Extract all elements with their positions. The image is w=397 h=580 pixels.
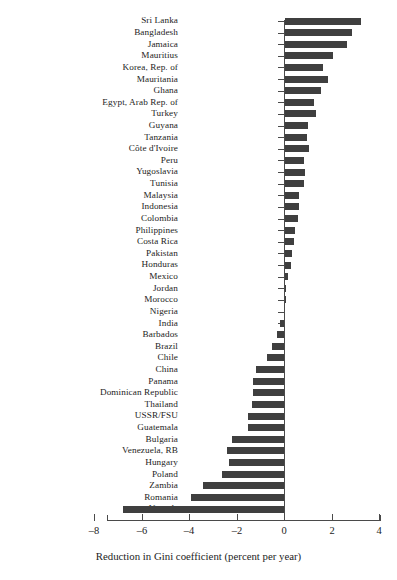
category-label: Morocco <box>144 295 178 304</box>
category-label: Yugoslavia <box>136 167 178 176</box>
category-label: Bulgaria <box>146 435 178 444</box>
bar <box>256 366 285 373</box>
category-label: Panama <box>148 377 178 386</box>
x-axis-tick-label: –2 <box>217 525 257 537</box>
category-label: Indonesia <box>141 202 178 211</box>
x-axis-tick-label: 0 <box>264 525 304 537</box>
x-axis-tick <box>284 514 285 521</box>
bar <box>285 238 294 245</box>
x-axis-line <box>107 520 381 521</box>
category-label: Mauritania <box>137 75 178 84</box>
category-label: India <box>159 319 178 328</box>
category-label: Pakistan <box>146 249 178 258</box>
bar <box>285 134 307 141</box>
category-label: Poland <box>152 470 178 479</box>
category-label: Brazil <box>155 342 178 351</box>
bar <box>253 389 284 396</box>
bar <box>285 87 321 94</box>
category-label: Guyana <box>149 121 178 130</box>
category-label: Philippines <box>136 226 178 235</box>
bar <box>285 262 291 269</box>
category-label: Malaysia <box>144 191 178 200</box>
bar <box>272 343 284 350</box>
category-label: Guatemala <box>137 423 178 432</box>
bar <box>285 180 304 187</box>
category-label: Korea, Rep. of <box>123 63 178 72</box>
bar <box>285 250 292 257</box>
category-label: Hungary <box>145 458 178 467</box>
x-axis-tick-label: –8 <box>74 525 114 537</box>
category-label: Mauritius <box>141 51 178 60</box>
bar <box>123 506 285 513</box>
category-label: Zambia <box>149 481 178 490</box>
bar <box>267 354 284 361</box>
bar <box>285 64 323 71</box>
category-label: Tanzania <box>144 133 178 142</box>
bar <box>285 215 298 222</box>
bar <box>248 424 284 431</box>
bar <box>285 169 305 176</box>
bar <box>191 494 284 501</box>
category-label: Turkey <box>151 109 178 118</box>
bar <box>285 192 299 199</box>
bar <box>285 203 299 210</box>
category-label: Egypt, Arab Rep. of <box>102 98 178 107</box>
zero-axis-line <box>284 20 285 520</box>
bar <box>227 447 284 454</box>
x-axis-tick-label: 2 <box>312 525 352 537</box>
x-axis-tick <box>94 514 95 521</box>
category-label: Bangladesh <box>134 28 178 37</box>
x-axis-tick-label: 4 <box>359 525 397 537</box>
category-label: Barbados <box>143 330 179 339</box>
category-label: Jamaica <box>148 40 178 49</box>
bar <box>285 122 308 129</box>
category-label: Côte d'Ivoire <box>129 144 178 153</box>
x-axis-tick <box>142 514 143 521</box>
category-label: USSR/FSU <box>135 411 178 420</box>
category-label: Jordan <box>153 284 178 293</box>
category-label: China <box>156 365 178 374</box>
bar <box>285 18 361 25</box>
bar <box>285 76 328 83</box>
bar <box>277 331 284 338</box>
bar <box>285 29 352 36</box>
category-label: Tunisia <box>150 179 178 188</box>
category-label: Venezuela, RB <box>122 446 178 455</box>
bar <box>285 273 288 280</box>
x-axis-title: Reduction in Gini coefficient (percent p… <box>0 549 397 563</box>
x-axis-tick <box>379 514 380 521</box>
category-label: Thailand <box>145 400 178 409</box>
bar <box>285 145 309 152</box>
x-axis-tick-label: –6 <box>122 525 162 537</box>
x-axis-tick-label: –4 <box>169 525 209 537</box>
x-axis-right-cap <box>380 515 381 520</box>
category-label: Nigeria <box>150 307 178 316</box>
bar <box>252 401 284 408</box>
x-axis-tick <box>237 514 238 521</box>
bar <box>285 227 295 234</box>
bar <box>285 52 333 59</box>
bar <box>232 436 284 443</box>
category-label: Costa Rica <box>137 237 178 246</box>
x-axis-tick <box>332 514 333 521</box>
bar <box>229 459 284 466</box>
category-label: Chile <box>158 353 178 362</box>
plot-area: Sri LankaBangladeshJamaicaMauritiusKorea… <box>0 0 397 580</box>
bar <box>285 41 347 48</box>
x-axis-left-cap <box>107 515 108 520</box>
category-label: Sri Lanka <box>141 16 178 25</box>
category-label: Mexico <box>149 272 178 281</box>
category-label: Romania <box>144 493 178 502</box>
x-axis-tick <box>189 514 190 521</box>
bar <box>285 296 286 303</box>
bar <box>222 471 284 478</box>
bar <box>285 285 286 292</box>
bar <box>248 413 284 420</box>
category-label: Ghana <box>154 86 178 95</box>
gini-reduction-bar-chart: Sri LankaBangladeshJamaicaMauritiusKorea… <box>0 0 397 580</box>
category-label: Peru <box>161 156 178 165</box>
category-label: Honduras <box>141 260 178 269</box>
category-label: Colombia <box>141 214 178 223</box>
bar <box>285 110 316 117</box>
bar <box>285 157 304 164</box>
